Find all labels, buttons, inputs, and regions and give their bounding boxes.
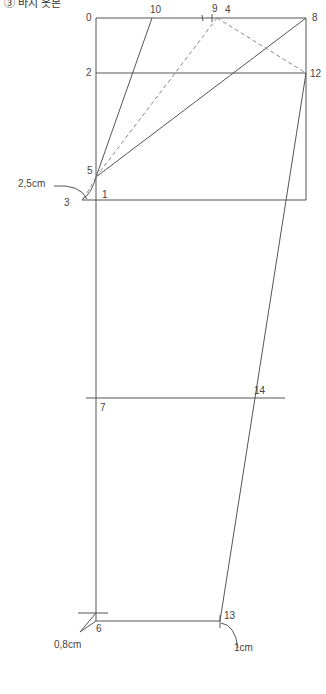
label-13: 13 (224, 611, 235, 621)
label-4: 4 (225, 5, 231, 15)
label-7: 7 (100, 403, 106, 413)
label-8: 8 (312, 13, 318, 23)
pattern-drawing (0, 0, 326, 694)
dashed-4-5 (96, 18, 217, 177)
label-3: 3 (64, 198, 70, 208)
dashed-4-12 (217, 18, 306, 73)
label-5: 5 (87, 166, 93, 176)
line-12-13 (220, 73, 306, 621)
label-0: 0 (86, 13, 92, 23)
tick-9 (202, 15, 203, 21)
label-10: 10 (150, 5, 161, 15)
label-12: 12 (310, 69, 321, 79)
dashed-crotch (82, 177, 96, 200)
label-6: 6 (96, 624, 102, 634)
label-2: 2 (86, 68, 92, 78)
line-10-5 (96, 18, 152, 177)
label-1: 1 (102, 190, 108, 200)
line-8-5 (96, 18, 306, 177)
arrow-2-5cm (54, 186, 87, 199)
label-9: 9 (212, 4, 218, 14)
annotation-0-8cm: 0,8cm (54, 640, 81, 650)
annotation-1cm: 1cm (234, 643, 253, 653)
label-14: 14 (254, 386, 265, 396)
annotation-2-5cm: 2,5cm (18, 179, 45, 189)
